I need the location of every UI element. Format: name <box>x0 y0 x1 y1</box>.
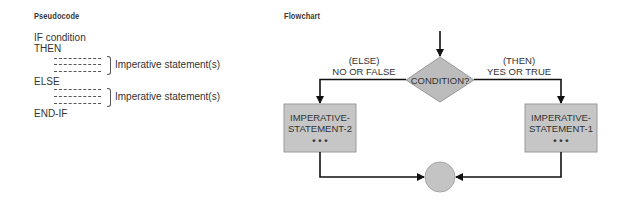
imperative-statement-2-box: IMPERATIVE- STATEMENT-2 • • • <box>284 104 356 152</box>
left-merge-arrow <box>320 152 424 177</box>
merge-connector-circle <box>425 162 455 192</box>
box-right-line1: IMPERATIVE- <box>531 112 591 123</box>
box-right-line2: STATEMENT-1 <box>529 123 593 134</box>
box-left-ellipsis: • • • <box>312 135 328 146</box>
decision-diamond: CONDITION? <box>406 57 474 102</box>
box-right-ellipsis: • • • <box>553 135 569 146</box>
decision-label: CONDITION? <box>411 75 470 86</box>
else-branch-arrow <box>320 80 406 104</box>
then-branch-arrow <box>474 80 561 104</box>
box-left-line2: STATEMENT-2 <box>288 123 352 134</box>
box-left-line1: IMPERATIVE- <box>290 112 350 123</box>
imperative-statement-1-box: IMPERATIVE- STATEMENT-1 • • • <box>525 104 597 152</box>
flowchart-diagram: CONDITION? IMPERATIVE- STATEMENT-2 • • •… <box>0 0 623 203</box>
right-merge-arrow <box>456 152 561 177</box>
